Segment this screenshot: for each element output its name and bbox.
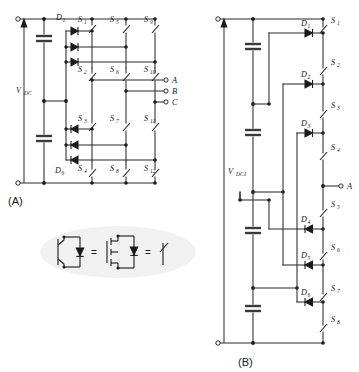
switch-sublabel-b-s1: 1 [337,20,340,26]
switch-sublabel-b-s5: 5 [337,204,340,210]
switch-sublabel-b-s3: 3 [336,105,340,111]
vdc1-label-b: V [228,167,234,176]
output-terminal-c [164,100,168,104]
diode-sublabel-b-d5: 5 [308,255,311,261]
output-label-b-a: A [346,182,353,191]
switch-sublabel-s6: 6 [116,69,119,75]
switch-label-s6: S [110,65,114,74]
legend-equals-1: = [91,247,97,258]
clamp-diode-b-d3 [297,129,325,137]
switch-label-s11: S [144,114,148,123]
dc-minus-terminal-b [216,341,220,345]
panel-a-labels: V DC D 1 D 6 S 1 S 5 S 9 S 2 S 6 S 10 S … [8,13,178,207]
switch-label-b-s5: S [331,200,335,209]
diode-sublabel-d1-a: 1 [63,17,66,23]
panel-a-circuit [16,17,168,185]
switch-label-s9: S [144,15,148,24]
diode-label-d6-a: D [54,166,61,175]
switch-sublabel-b-s8: 8 [337,319,340,325]
clamp-diode-b-d6 [297,298,325,306]
diode-label-b-d2: D [300,70,307,79]
diode-label-d1-a: D [55,13,62,22]
switch-sublabel-s11: 11 [150,118,155,124]
diode-label-b-d4: D [300,215,307,224]
switch-label-s2: S [78,65,82,74]
vdc1-sublabel-b: DC1 [235,171,247,177]
dc-plus-terminal-b [216,17,220,21]
switch-sublabel-s8: 8 [116,168,119,174]
output-label-c: C [172,98,178,107]
panel-label-a: (A) [8,195,23,207]
dc-minus-terminal-a [16,181,20,185]
switch-sublabel-s5: 5 [116,19,119,25]
output-terminal-b-a [339,184,343,188]
switch-label-b-s2: S [331,58,335,67]
switch-label-b-s1: S [331,16,335,25]
vdc-arrow-b [221,19,227,343]
switch-label-b-s8: S [331,315,335,324]
vdc-label-a: V [16,86,22,95]
diode-label-b-d3: D [300,119,307,128]
clamp-diode-a-4 [66,125,92,133]
switch-label-s1: S [78,15,82,24]
clamp-diode-b-d2 [283,80,325,88]
switch-sublabel-s4: 4 [84,168,87,174]
switch-label-s3: S [78,114,82,123]
switch-label-b-s4: S [331,143,335,152]
clamp-diode-b-d1 [269,29,325,37]
switch-sublabel-s9: 9 [150,19,153,25]
clamp-diode-a-2 [66,43,126,51]
output-terminal-b [164,89,168,93]
figure-root: V DC D 1 D 6 S 1 S 5 S 9 S 2 S 6 S 10 S … [0,0,359,372]
vdc-arrow-a [21,19,27,183]
legend-equals-2: = [145,247,151,258]
clamp-diode-a-1 [66,27,92,35]
circuit-diagram-svg: V DC D 1 D 6 S 1 S 5 S 9 S 2 S 6 S 10 S … [0,0,359,372]
switch-label-s8: S [110,164,114,173]
dc-plus-terminal-a [16,17,20,21]
switch-label-b-s7: S [331,284,335,293]
switch-sublabel-s10: 10 [150,69,156,75]
clamp-diode-b-d5 [283,261,325,269]
diode-sublabel-b-d2: 2 [308,74,311,80]
switch-label-s5: S [110,15,114,24]
clamp-diode-a-5 [66,141,126,149]
diode-sublabel-d6-a: 6 [62,170,65,176]
switch-sublabel-b-s7: 7 [337,288,340,294]
diode-sublabel-b-d4: 4 [308,219,311,225]
clamp-diode-a-6 [66,156,155,164]
panel-b-labels: V DC1 D 1 D 2 D 3 D 4 D 5 D 6 S 1 S 2 S … [228,16,353,368]
switch-sublabel-b-s4: 4 [337,147,340,153]
diode-label-b-d5: D [300,251,307,260]
capacitor-chain-b [245,17,261,345]
diode-label-b-d6: D [300,288,307,297]
switch-label-s4: S [78,164,82,173]
vdc-sublabel-a: DC [23,90,32,96]
switch-sublabel-s2: 2 [84,69,87,75]
switch-label-s12: S [144,164,148,173]
switch-sublabel-b-s6: 6 [337,247,340,253]
switch-label-b-s3: S [331,101,335,110]
switch-sublabel-s7: 7 [116,118,119,124]
panel-label-b: (B) [238,356,253,368]
switch-sublabel-b-s2: 2 [337,62,340,68]
diode-sublabel-b-d1: 1 [308,23,311,29]
switch-sublabel-s12: 12 [150,168,156,174]
switch-equivalence-legend: = = [40,226,196,278]
output-terminal-a [164,78,168,82]
switch-label-s10: S [144,65,148,74]
output-label-a: A [171,76,178,85]
switch-label-s7: S [110,114,114,123]
switch-label-b-s6: S [331,243,335,252]
panel-b-circuit [216,17,343,345]
diode-sublabel-b-d6: 6 [308,292,311,298]
switch-sublabel-s1: 1 [84,19,87,25]
output-label-b: B [172,87,177,96]
diode-label-b-d1: D [300,19,307,28]
switch-sublabel-s3: 3 [83,118,87,124]
diode-sublabel-b-d3: 3 [307,123,311,129]
